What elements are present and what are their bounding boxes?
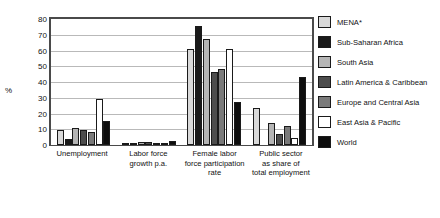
y-tick-label: 40 — [38, 78, 47, 87]
bar — [253, 108, 260, 145]
legend-item[interactable]: East Asia & Pacific — [318, 112, 438, 132]
y-tick-label: 80 — [38, 15, 47, 24]
legend-item-label: Europe and Central Asia — [337, 98, 419, 107]
bar-group — [51, 19, 116, 145]
y-tick-label: 30 — [38, 93, 47, 102]
legend-item-label: Latin America & Caribbean — [337, 78, 427, 87]
legend-swatch — [318, 96, 331, 108]
bar — [103, 121, 110, 145]
x-axis-label: Female laborforce participationrate — [182, 149, 248, 178]
bar — [226, 49, 233, 145]
legend-swatch — [318, 136, 331, 148]
x-axis-labels: UnemploymentLabor forcegrowth p.a.Female… — [49, 149, 314, 178]
legend-swatch — [318, 116, 331, 128]
bar — [96, 99, 103, 145]
bar — [195, 26, 202, 145]
bar — [80, 130, 87, 145]
bar — [169, 141, 176, 145]
x-axis-label: Labor forcegrowth p.a. — [115, 149, 181, 178]
bar — [153, 143, 160, 145]
legend-item[interactable]: Europe and Central Asia — [318, 92, 438, 112]
bar — [299, 77, 306, 145]
bar-chart: % 01020304050607080 UnemploymentLabor fo… — [0, 0, 440, 218]
bar — [203, 39, 210, 145]
legend-swatch — [318, 56, 331, 68]
bar — [145, 142, 152, 145]
x-axis-label: Public sectoras share oftotal employment — [248, 149, 314, 178]
legend-item-label: MENA* — [337, 18, 362, 27]
bar-group — [247, 19, 312, 145]
bar — [211, 72, 218, 145]
bar-group — [116, 19, 181, 145]
y-tick-label: 70 — [38, 30, 47, 39]
bar — [161, 143, 168, 145]
legend-item[interactable]: MENA* — [318, 12, 438, 32]
legend-item[interactable]: World — [318, 132, 438, 152]
bar — [276, 134, 283, 145]
bar — [268, 123, 275, 145]
y-tick-label: 20 — [38, 109, 47, 118]
y-tick-label: 10 — [38, 125, 47, 134]
y-axis-label: % — [5, 86, 12, 95]
bar — [218, 69, 225, 145]
y-tick-label: 60 — [38, 46, 47, 55]
legend-item-label: Sub-Saharan Africa — [337, 38, 403, 47]
x-axis-label: Unemployment — [49, 149, 115, 178]
bar — [88, 132, 95, 145]
bar — [57, 130, 64, 145]
legend-item-label: World — [337, 138, 357, 147]
bar — [122, 143, 129, 145]
legend-item[interactable]: South Asia — [318, 52, 438, 72]
legend-item[interactable]: Sub-Saharan Africa — [318, 32, 438, 52]
bar — [138, 142, 145, 145]
bar — [234, 102, 241, 145]
legend-swatch — [318, 76, 331, 88]
legend-item-label: East Asia & Pacific — [337, 118, 400, 127]
legend-swatch — [318, 16, 331, 28]
bar — [130, 143, 137, 145]
bar — [291, 138, 298, 145]
bar — [65, 139, 72, 145]
legend-item[interactable]: Latin America & Caribbean — [318, 72, 438, 92]
bar — [187, 49, 194, 145]
bar — [284, 126, 291, 145]
bar — [72, 128, 79, 145]
legend-swatch — [318, 36, 331, 48]
y-tick-label: 0 — [43, 141, 47, 150]
legend: MENA*Sub-Saharan AfricaSouth AsiaLatin A… — [318, 12, 438, 152]
y-tick-label: 50 — [38, 62, 47, 71]
plot-area: 01020304050607080 — [49, 17, 314, 146]
legend-item-label: South Asia — [337, 58, 373, 67]
bar-groups — [51, 19, 312, 145]
bar-group — [182, 19, 247, 145]
